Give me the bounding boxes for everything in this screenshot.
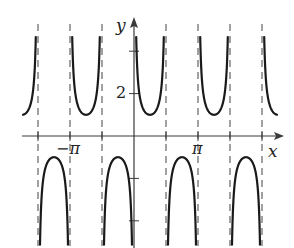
y-axis-label: y	[116, 17, 126, 34]
curve-branch	[72, 37, 100, 115]
function-graph	[0, 0, 294, 248]
tick-label-two: 2	[116, 85, 126, 101]
curve-branch	[200, 37, 228, 115]
curve-branch	[168, 157, 196, 244]
curve-branch	[232, 157, 260, 244]
curve-branch	[104, 157, 132, 244]
curve-branch	[40, 157, 68, 244]
curve-branch	[23, 37, 36, 115]
tick-label-neg-pi: −π	[56, 141, 80, 157]
tick-label-pi: π	[192, 141, 203, 157]
curve-branch	[264, 37, 277, 115]
curve-branch	[136, 37, 164, 115]
vertical-asymptotes	[38, 24, 262, 246]
axes	[22, 17, 284, 248]
x-axis-label: x	[268, 143, 278, 160]
